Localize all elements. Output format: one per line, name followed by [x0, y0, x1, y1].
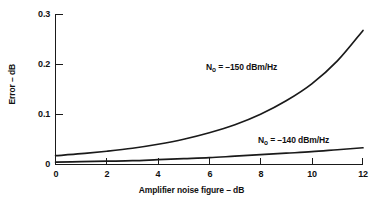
y-axis-ticks: [56, 15, 63, 115]
x-tick-label-8: 8: [250, 170, 272, 179]
curve-annotation-140dbm: No = –140 dBm/Hz: [258, 136, 329, 145]
annotation-subscript-lower: o: [264, 139, 268, 146]
annotation-value-lower: = –140 dBm/Hz: [270, 135, 329, 145]
x-tick-label-6: 6: [199, 170, 221, 179]
y-axis-title: Error – dB: [8, 44, 17, 124]
x-tick-label-12: 12: [352, 170, 374, 179]
x-tick-label-4: 4: [147, 170, 169, 179]
annotation-value-upper: = –150 dBm/Hz: [218, 62, 277, 72]
x-tick-label-2: 2: [96, 170, 118, 179]
x-tick-label-10: 10: [301, 170, 323, 179]
chart-figure: 0.3 0.2 0.1 0 0 2 4 6 8 10 12 Amplifier …: [0, 0, 383, 206]
y-tick-label-0: 0: [26, 160, 50, 169]
x-tick-label-0: 0: [45, 170, 67, 179]
y-tick-label-0.1: 0.1: [26, 110, 50, 119]
annotation-subscript-upper: o: [212, 66, 216, 73]
x-axis-title: Amplifier noise figure – dB: [0, 186, 383, 195]
y-tick-label-0.2: 0.2: [26, 60, 50, 69]
y-tick-label-0.3: 0.3: [26, 10, 50, 19]
curve-annotation-150dbm: No = –150 dBm/Hz: [206, 63, 277, 72]
